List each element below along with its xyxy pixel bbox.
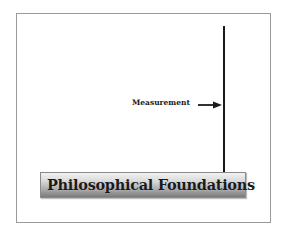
arrow-head [213, 102, 222, 109]
banner-title: Philosophical Foundations [47, 176, 255, 193]
title-banner: Philosophical Foundations [40, 172, 246, 198]
vertical-axis-line [223, 26, 225, 174]
measurement-label: Measurement [132, 98, 190, 107]
right-arrow-icon [198, 101, 222, 109]
